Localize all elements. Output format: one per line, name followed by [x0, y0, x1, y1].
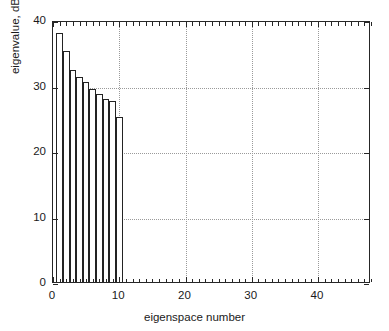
y-axis-tick — [364, 219, 369, 220]
x-axis-minor-tick — [60, 22, 61, 26]
x-axis-minor-tick — [113, 279, 114, 283]
x-axis-minor-tick — [292, 22, 293, 26]
x-axis-minor-tick — [86, 22, 87, 26]
x-axis-minor-tick — [345, 22, 346, 26]
x-axis-minor-tick — [73, 279, 74, 283]
x-axis-minor-tick — [133, 22, 134, 26]
x-axis-minor-tick — [371, 22, 372, 26]
y-axis-tick-label: 0 — [40, 277, 46, 289]
x-axis-minor-tick — [80, 279, 81, 283]
x-axis-minor-tick — [139, 279, 140, 283]
x-axis-minor-tick — [80, 22, 81, 26]
x-axis-tick-label: 20 — [160, 290, 210, 302]
x-axis-minor-tick — [172, 22, 173, 26]
x-axis-minor-tick — [331, 22, 332, 26]
x-axis-minor-tick — [305, 22, 306, 26]
x-axis-minor-tick — [351, 279, 352, 283]
x-axis-tick — [53, 22, 54, 27]
x-axis-minor-tick — [93, 22, 94, 26]
x-axis-minor-tick — [146, 22, 147, 26]
y-axis-tick-label: 10 — [33, 212, 46, 224]
x-axis-tick-label: 40 — [292, 290, 342, 302]
x-axis-minor-tick — [285, 22, 286, 26]
bars-layer — [53, 22, 369, 282]
x-axis-minor-tick — [86, 279, 87, 283]
y-axis-tick — [53, 219, 58, 220]
x-axis-minor-tick — [73, 22, 74, 26]
x-axis-minor-tick — [126, 279, 127, 283]
x-axis-tick — [318, 22, 319, 27]
x-axis-minor-tick — [60, 279, 61, 283]
bar — [56, 33, 63, 282]
x-axis-tick — [252, 22, 253, 27]
y-axis-tick-label: 20 — [33, 146, 46, 158]
x-axis-tick-label: 30 — [226, 290, 276, 302]
x-axis-minor-tick — [245, 279, 246, 283]
x-axis-minor-tick — [99, 22, 100, 26]
y-axis-tick — [364, 284, 369, 285]
y-axis-tick — [364, 88, 369, 89]
x-axis-minor-tick — [245, 22, 246, 26]
x-axis-tick — [119, 22, 120, 27]
x-axis-minor-tick — [192, 279, 193, 283]
x-axis-minor-tick — [225, 279, 226, 283]
x-axis-minor-tick — [371, 279, 372, 283]
x-axis-minor-tick — [298, 22, 299, 26]
x-axis-minor-tick — [325, 279, 326, 283]
x-axis-minor-tick — [205, 22, 206, 26]
x-axis-minor-tick — [311, 22, 312, 26]
x-axis-minor-tick — [106, 279, 107, 283]
x-axis-minor-tick — [199, 22, 200, 26]
x-axis-minor-tick — [239, 279, 240, 283]
x-axis-minor-tick — [152, 279, 153, 283]
x-axis-minor-tick — [232, 279, 233, 283]
y-axis-tick — [53, 88, 58, 89]
x-axis-minor-tick — [292, 279, 293, 283]
x-axis-minor-tick — [159, 22, 160, 26]
x-axis-minor-tick — [358, 22, 359, 26]
x-axis-minor-tick — [66, 279, 67, 283]
y-axis-tick-label: 40 — [33, 15, 46, 27]
x-axis-minor-tick — [232, 22, 233, 26]
x-axis-minor-tick — [305, 279, 306, 283]
x-axis-minor-tick — [278, 279, 279, 283]
x-axis-minor-tick — [179, 279, 180, 283]
x-axis-minor-tick — [311, 279, 312, 283]
x-axis-minor-tick — [99, 279, 100, 283]
x-axis-minor-tick — [205, 279, 206, 283]
bar — [76, 77, 83, 282]
x-axis-minor-tick — [358, 279, 359, 283]
x-axis-tick — [252, 277, 253, 282]
y-axis-tick-label: 30 — [33, 81, 46, 93]
x-axis-minor-tick — [152, 22, 153, 26]
y-axis-tick — [364, 153, 369, 154]
x-axis-minor-tick — [212, 279, 213, 283]
x-axis-tick — [186, 277, 187, 282]
y-axis-tick — [53, 284, 58, 285]
eigenvalue-chart-figure: eigenvalue, dB eigenspace number 0102030… — [0, 0, 389, 331]
x-axis-minor-tick — [146, 279, 147, 283]
y-axis-title: eigenvalue, dB — [9, 0, 21, 96]
plot-area — [52, 21, 370, 283]
x-axis-minor-tick — [139, 22, 140, 26]
x-axis-minor-tick — [219, 22, 220, 26]
x-axis-minor-tick — [364, 22, 365, 26]
x-axis-minor-tick — [192, 22, 193, 26]
bar — [116, 117, 123, 282]
y-axis-tick — [53, 153, 58, 154]
x-axis-minor-tick — [199, 279, 200, 283]
x-axis-minor-tick — [106, 22, 107, 26]
x-axis-minor-tick — [345, 279, 346, 283]
x-axis-minor-tick — [66, 22, 67, 26]
x-axis-minor-tick — [351, 22, 352, 26]
x-axis-minor-tick — [325, 22, 326, 26]
x-axis-minor-tick — [258, 22, 259, 26]
x-axis-minor-tick — [338, 279, 339, 283]
x-axis-minor-tick — [338, 22, 339, 26]
x-axis-minor-tick — [278, 22, 279, 26]
x-axis-minor-tick — [133, 279, 134, 283]
x-axis-minor-tick — [364, 279, 365, 283]
x-axis-tick-label: 10 — [93, 290, 143, 302]
x-axis-minor-tick — [219, 279, 220, 283]
x-axis-minor-tick — [285, 279, 286, 283]
